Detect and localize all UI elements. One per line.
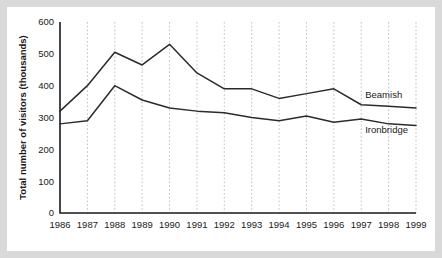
x-tick-1995: 1995 — [296, 219, 317, 230]
x-tick-1996: 1996 — [323, 219, 344, 230]
y-tick-400: 400 — [38, 80, 54, 91]
chart-plot-frame: 0100200300400500600 19861987198819891990… — [7, 7, 435, 251]
x-tick-1992: 1992 — [214, 219, 235, 230]
x-tick-1986: 1986 — [49, 219, 70, 230]
chart-figure: 0100200300400500600 19861987198819891990… — [0, 0, 442, 258]
x-tick-1990: 1990 — [159, 219, 180, 230]
x-tick-1994: 1994 — [269, 219, 290, 230]
x-tick-1988: 1988 — [104, 219, 125, 230]
y-axis-title: Total number of visitors (thousands) — [17, 35, 28, 200]
y-tick-100: 100 — [38, 176, 54, 187]
x-tick-1987: 1987 — [77, 219, 98, 230]
y-tick-300: 300 — [38, 112, 54, 123]
x-tick-1997: 1997 — [351, 219, 372, 230]
x-tick-1991: 1991 — [186, 219, 207, 230]
y-tick-0: 0 — [49, 207, 54, 218]
y-tick-500: 500 — [38, 48, 54, 59]
x-tick-1993: 1993 — [241, 219, 262, 230]
line-chart: 0100200300400500600 19861987198819891990… — [7, 7, 435, 251]
x-tick-1989: 1989 — [132, 219, 153, 230]
y-tick-600: 600 — [38, 16, 54, 27]
series-label-beamish: Beamish — [365, 89, 402, 100]
x-tick-1998: 1998 — [378, 219, 399, 230]
y-tick-200: 200 — [38, 144, 54, 155]
x-tick-1999: 1999 — [405, 219, 426, 230]
series-label-ironbridge: Ironbridge — [365, 124, 408, 135]
